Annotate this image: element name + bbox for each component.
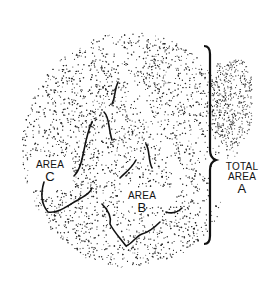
area-letter: C bbox=[30, 170, 70, 183]
total-area-a-label: TOTAL AREA A bbox=[214, 162, 270, 195]
diagram-figure: TOTAL AREA A AREA C AREA B bbox=[0, 0, 276, 291]
stippled-region-illustration bbox=[0, 0, 276, 291]
area-letter: A bbox=[214, 182, 270, 195]
area-c-label: AREA C bbox=[30, 160, 70, 183]
total-area-bracket bbox=[204, 46, 216, 244]
area-letter: B bbox=[128, 201, 156, 214]
area-b-label: AREA B bbox=[128, 191, 156, 214]
